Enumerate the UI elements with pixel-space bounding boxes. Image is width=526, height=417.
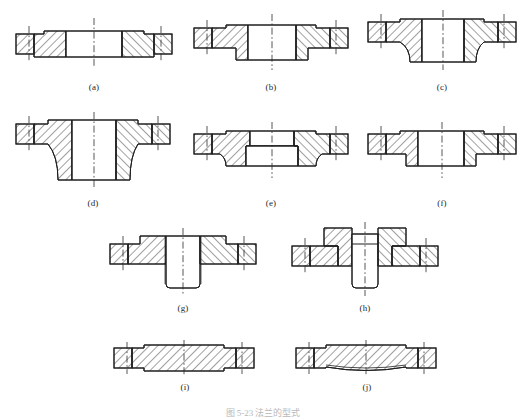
figure-d-label: (d) bbox=[14, 198, 172, 208]
figure-h bbox=[290, 222, 440, 298]
figure-b-label: (b) bbox=[192, 82, 350, 92]
figure-i-label: (i) bbox=[112, 382, 258, 392]
figure-f-label: (f) bbox=[366, 198, 518, 208]
figure-i bbox=[112, 340, 258, 376]
figure-j bbox=[294, 340, 440, 376]
figure-f bbox=[366, 120, 518, 182]
figure-c bbox=[366, 8, 518, 74]
figure-a bbox=[14, 14, 174, 72]
figure-j-label: (j) bbox=[294, 382, 440, 392]
drawing-sheet: (a) (b) bbox=[0, 0, 526, 417]
figure-c-label: (c) bbox=[366, 82, 518, 92]
figure-h-label: (h) bbox=[290, 303, 440, 313]
figure-g bbox=[108, 226, 258, 298]
figure-b bbox=[192, 10, 350, 74]
figure-e bbox=[192, 120, 350, 182]
sheet-caption: 图 5-23 法兰的型式 bbox=[0, 408, 526, 417]
figure-e-label: (e) bbox=[192, 198, 350, 208]
figure-d bbox=[14, 112, 172, 192]
figure-a-label: (a) bbox=[14, 82, 174, 92]
figure-g-label: (g) bbox=[108, 303, 258, 313]
